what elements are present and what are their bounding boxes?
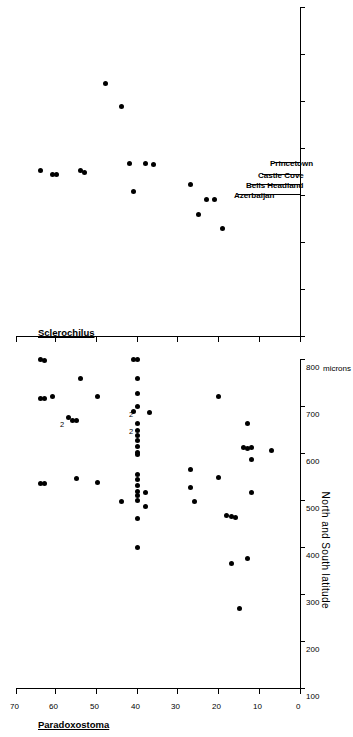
data-point	[119, 104, 124, 109]
data-point	[245, 421, 250, 426]
data-point	[103, 81, 108, 86]
data-point	[135, 405, 140, 410]
y-tick	[218, 689, 219, 694]
data-point	[131, 409, 136, 414]
data-point-count-label: 2	[129, 428, 133, 436]
y-tick-label: 50	[90, 703, 99, 711]
data-point	[216, 475, 221, 480]
x-tick-label: 600	[306, 458, 319, 466]
x-tick	[300, 453, 305, 454]
x-tick	[300, 594, 305, 595]
y-tick	[16, 689, 17, 694]
data-point	[135, 391, 140, 396]
data-point	[143, 161, 148, 166]
y-tick-label: 70	[10, 703, 19, 711]
y-tick-label: 0	[296, 703, 300, 711]
data-point	[50, 394, 55, 399]
data-point	[196, 212, 201, 217]
data-point	[143, 504, 148, 509]
y-axis-title: North and South latitude	[320, 492, 331, 609]
x-tick-label: 100	[306, 693, 319, 701]
y-tick	[177, 337, 178, 342]
data-point	[78, 376, 83, 381]
data-point	[151, 162, 156, 167]
data-point	[95, 394, 100, 399]
data-point	[135, 433, 140, 438]
y-tick	[259, 337, 260, 342]
x-tick	[300, 101, 305, 102]
x-tick	[300, 148, 305, 149]
y-tick-label: 60	[49, 703, 58, 711]
y-tick	[177, 689, 178, 694]
panel-sclerochilus: Sclerochilus AzerbaijanBells HeadlandCas…	[0, 0, 353, 345]
data-point	[127, 161, 132, 166]
data-point	[42, 396, 47, 401]
x-axis-line-left	[300, 359, 301, 689]
data-point	[233, 515, 238, 520]
x-tick-label: 800	[306, 364, 319, 372]
callout-label: Azerbaijan	[234, 191, 274, 200]
x-tick	[300, 54, 305, 55]
x-tick	[300, 547, 305, 548]
panel-title-paradoxostoma: Paradoxostoma	[38, 719, 109, 730]
y-tick-label: 30	[171, 703, 180, 711]
y-tick	[259, 689, 260, 694]
figure-root: 100 200 300 400 500 600 700 800 microns …	[0, 0, 353, 737]
x-tick	[300, 641, 305, 642]
data-point	[249, 445, 254, 450]
x-tick	[300, 406, 305, 407]
panel-paradoxostoma: 100 200 300 400 500 600 700 800 microns …	[0, 347, 353, 737]
data-point	[269, 448, 274, 453]
data-point	[135, 499, 140, 504]
data-point	[135, 493, 140, 498]
data-point	[135, 452, 140, 457]
panel-title-sclerochilus: Sclerochilus	[38, 327, 95, 338]
x-tick	[300, 195, 305, 196]
data-point	[38, 168, 43, 173]
x-tick	[300, 359, 305, 360]
y-tick	[137, 689, 138, 694]
y-tick	[16, 337, 17, 342]
data-point	[70, 418, 75, 423]
data-point	[135, 516, 140, 521]
data-point	[188, 467, 193, 472]
data-point	[249, 490, 254, 495]
data-point	[192, 499, 197, 504]
data-point	[204, 197, 209, 202]
data-point	[135, 546, 140, 551]
data-point	[95, 480, 100, 485]
x-axis-unit-label: microns	[323, 364, 351, 373]
data-point	[212, 197, 217, 202]
y-tick-label: 40	[131, 703, 140, 711]
data-point	[245, 556, 250, 561]
y-tick	[96, 689, 97, 694]
x-tick-label: 700	[306, 411, 319, 419]
data-point	[135, 477, 140, 482]
data-point	[74, 476, 79, 481]
data-point	[135, 421, 140, 426]
x-tick	[300, 242, 305, 243]
data-point	[188, 182, 193, 187]
data-point	[143, 490, 148, 495]
data-point	[135, 357, 140, 362]
data-point	[188, 485, 193, 490]
data-point	[135, 376, 140, 381]
callout-label: Castle Cove	[258, 171, 304, 180]
y-tick-label: 10	[253, 703, 262, 711]
data-point-count-label: 2	[60, 421, 64, 429]
data-point	[74, 418, 79, 423]
x-tick-label: 400	[306, 552, 319, 560]
y-tick	[137, 337, 138, 342]
data-point	[220, 226, 225, 231]
callout-label: Bells Headland	[246, 181, 303, 190]
data-point	[135, 444, 140, 449]
data-point	[135, 483, 140, 488]
y-tick-label: 20	[212, 703, 221, 711]
figure-rotated-canvas: 100 200 300 400 500 600 700 800 microns …	[0, 0, 353, 737]
data-point	[42, 358, 47, 363]
x-tick-label: 500	[306, 505, 319, 513]
x-tick	[300, 500, 305, 501]
data-point	[216, 394, 221, 399]
data-point	[119, 499, 124, 504]
data-point	[131, 189, 136, 194]
